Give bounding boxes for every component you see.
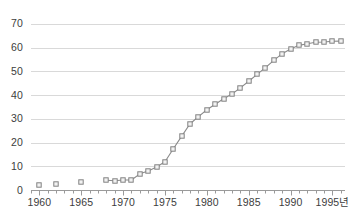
data-point-marker [255,72,259,76]
data-point-marker [163,160,167,164]
data-point-marker [171,147,175,151]
y-axis-tick-label: 70 [1,18,23,29]
y-axis-tick-label: 10 [1,161,23,172]
data-point-marker [339,39,343,43]
x-axis-tick-label: 1980 [184,197,230,208]
y-axis-tick-label: 30 [1,113,23,124]
data-point-marker [138,172,142,176]
line-chart-plot [0,0,356,218]
data-point-marker [289,47,293,51]
data-point-marker [188,122,192,126]
x-axis-tick-label: 1985 [226,197,272,208]
data-point-marker [305,42,309,46]
x-axis-tick-label: 1960 [16,197,62,208]
data-point-marker [272,58,276,62]
series-line [106,41,340,181]
y-axis-tick-label: 50 [1,66,23,77]
x-axis-tick-label: 1970 [100,197,146,208]
y-axis-tick-label: 20 [1,137,23,148]
data-point-marker [121,178,125,182]
x-axis-tick-label: 1975 [142,197,188,208]
y-axis-tick-label: 60 [1,42,23,53]
x-axis-tick-label: 1995년 [309,197,355,208]
data-point-marker [314,40,318,44]
data-point-marker [129,178,133,182]
data-point-marker [104,178,108,182]
chart-container: 010203040506070 196019651970197519801985… [0,0,356,218]
data-point-marker [37,183,41,187]
data-point-marker [155,165,159,169]
data-point-marker [146,169,150,173]
data-point-marker [230,92,234,96]
data-point-marker [180,134,184,138]
data-point-marker [322,40,326,44]
data-point-marker [297,43,301,47]
data-point-marker [280,52,284,56]
data-point-marker [205,108,209,112]
y-axis-tick-label: 40 [1,90,23,101]
data-point-marker [79,180,83,184]
y-axis-tick-label: 0 [1,185,23,196]
data-point-marker [330,39,334,43]
data-point-marker [238,86,242,90]
x-axis-tick-label: 1965 [58,197,104,208]
data-point-marker [54,182,58,186]
data-point-marker [247,79,251,83]
data-point-marker [196,115,200,119]
data-point-marker [263,66,267,70]
data-point-marker [113,179,117,183]
data-point-marker [222,97,226,101]
data-point-marker [213,102,217,106]
x-axis-tick-label: 1990 [268,197,314,208]
